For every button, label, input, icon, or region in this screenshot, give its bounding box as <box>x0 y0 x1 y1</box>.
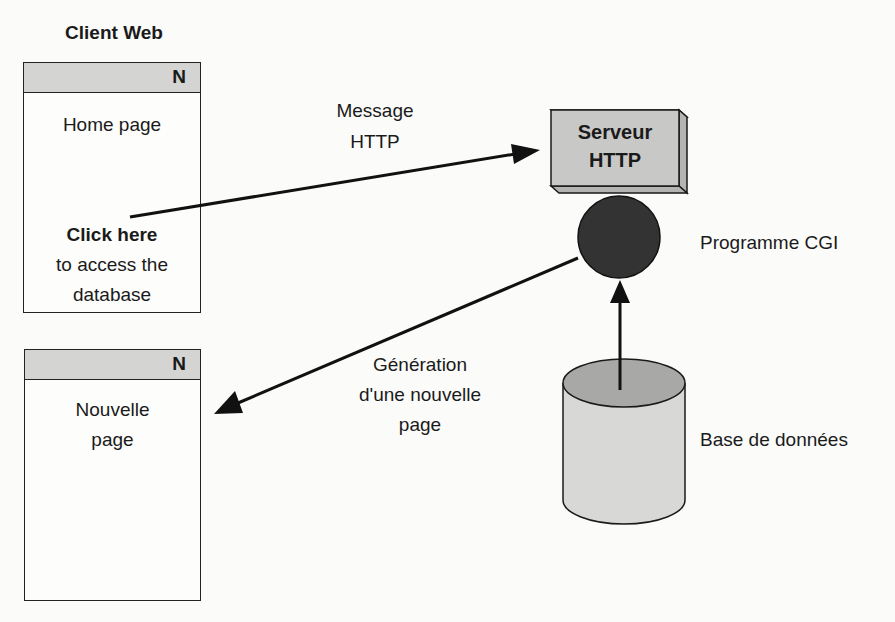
page-generation-label-line3: page <box>340 410 500 440</box>
http-message-label-line1: Message <box>315 96 435 126</box>
cgi-program-label: Programme CGI <box>700 228 838 258</box>
http-server-label-line1: Serveur <box>551 117 679 147</box>
database-cylinder-icon <box>563 359 685 524</box>
page-generation-label-line2: d'une nouvelle <box>340 380 500 410</box>
diagram-graphics <box>0 0 895 622</box>
page-generation-label-line1: Génération <box>340 350 500 380</box>
http-server-label-line2: HTTP <box>551 145 679 175</box>
cgi-program-circle <box>578 196 660 278</box>
database-label: Base de données <box>700 425 848 455</box>
http-message-label-line2: HTTP <box>315 127 435 157</box>
